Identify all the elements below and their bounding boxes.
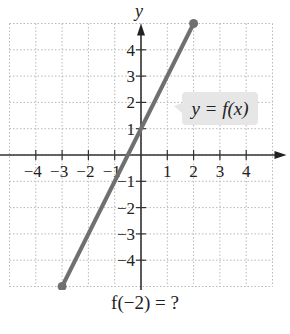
function-graph: xy −4−3−2−112344321−1−2−3−4 y = f(x) — [0, 0, 290, 290]
function-label-text: y = f(x) — [189, 98, 248, 120]
y-tick-label: 2 — [127, 93, 136, 112]
y-tick-label: −3 — [117, 225, 135, 244]
x-tick-label: 2 — [189, 162, 198, 181]
y-tick-label: 3 — [127, 67, 136, 86]
y-tick-label: −2 — [117, 199, 135, 218]
question-text: f(−2) = ? — [0, 292, 290, 314]
axes: xy — [0, 1, 290, 290]
x-tick-label: −3 — [50, 162, 68, 181]
y-tick-label: −4 — [117, 251, 136, 270]
end-point — [189, 19, 198, 28]
function-label: y = f(x) — [174, 92, 258, 125]
y-tick-label: 4 — [127, 41, 136, 60]
x-axis-arrow-icon — [275, 151, 287, 159]
y-tick-label: 1 — [127, 120, 136, 139]
y-axis-label: y — [133, 1, 143, 21]
x-tick-label: −4 — [24, 162, 43, 181]
x-tick-label: −2 — [76, 162, 94, 181]
x-tick-label: 4 — [242, 162, 251, 181]
x-tick-label: 1 — [163, 162, 172, 181]
x-tick-label: 3 — [216, 162, 225, 181]
y-axis-arrow-icon — [137, 24, 145, 36]
